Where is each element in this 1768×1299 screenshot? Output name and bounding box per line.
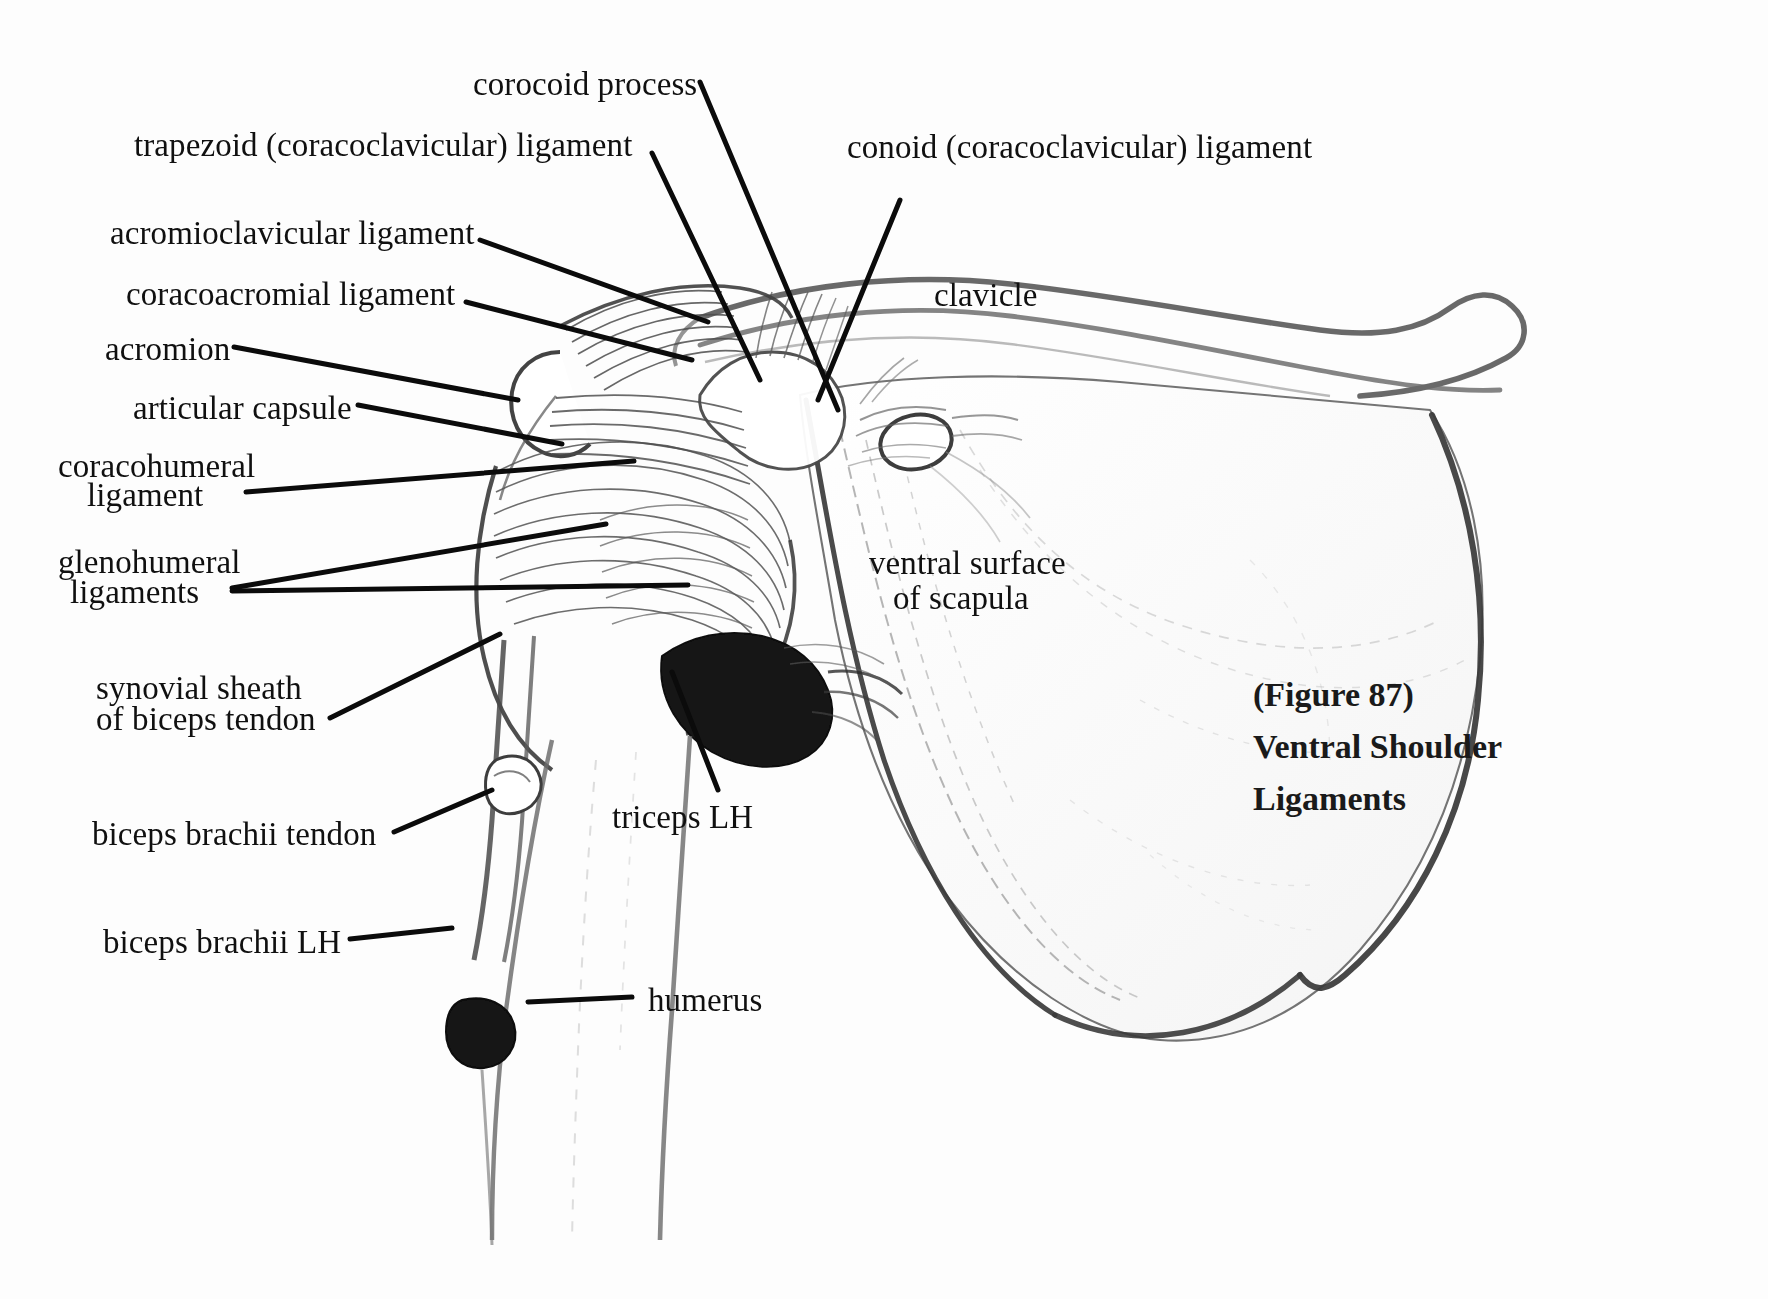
label-glenohumeral-ligaments-line2: ligaments <box>70 572 199 612</box>
leader-biceps-brachii-tendon <box>394 790 492 832</box>
figure-caption-line3: Ligaments <box>1253 773 1406 826</box>
label-conoid-ligament: conoid (coracoclavicular) ligament <box>847 127 1312 167</box>
label-ventral-surface-line2: of scapula <box>893 578 1029 618</box>
leader-conoid-ligament <box>818 200 900 400</box>
leader-biceps-brachii-lh <box>350 928 452 939</box>
leader-humerus <box>528 997 632 1002</box>
label-synovial-sheath-line2: of biceps tendon <box>96 699 316 739</box>
label-coracoacromial-ligament: coracoacromial ligament <box>126 274 455 314</box>
label-articular-capsule: articular capsule <box>133 388 352 428</box>
figure-page: corocoid process trapezoid (coracoclavic… <box>0 0 1768 1299</box>
shoulder-anatomy-drawing <box>0 0 1768 1299</box>
label-biceps-brachii-tendon: biceps brachii tendon <box>92 814 376 854</box>
leader-glenohumeral-upper <box>232 524 606 588</box>
label-trapezoid-ligament: trapezoid (coracoclavicular) ligament <box>134 125 632 165</box>
label-clavicle: clavicle <box>934 275 1037 315</box>
leader-synovial-sheath <box>330 634 500 718</box>
figure-caption-line2: Ventral Shoulder <box>1253 721 1502 774</box>
label-acromioclavicular-ligament: acromioclavicular ligament <box>110 213 475 253</box>
label-acromion: acromion <box>105 329 230 369</box>
leader-coracohumeral-ligament <box>246 461 634 492</box>
leader-coracoacromial <box>466 302 692 360</box>
leader-glenohumeral-lower <box>232 585 688 591</box>
label-coracohumeral-ligament-line2: ligament <box>87 475 203 515</box>
figure-caption-number: (Figure 87) <box>1253 669 1414 722</box>
label-triceps-lh: triceps LH <box>612 797 753 837</box>
label-biceps-brachii-lh: biceps brachii LH <box>103 922 341 962</box>
label-corocoid-process: corocoid process <box>473 64 697 104</box>
label-humerus: humerus <box>648 980 762 1020</box>
